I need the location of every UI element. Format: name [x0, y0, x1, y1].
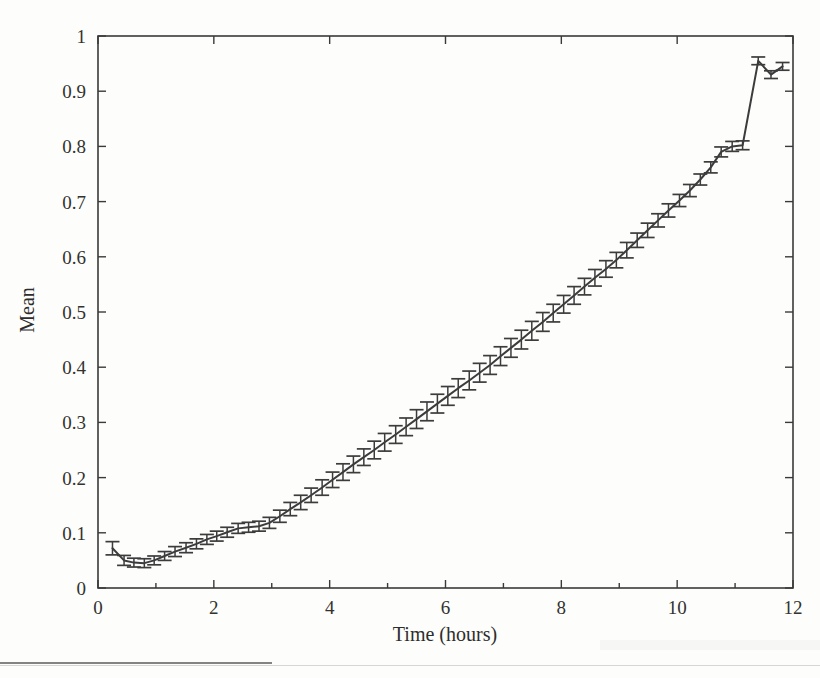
x-tick-label: 6 — [441, 597, 451, 618]
y-axis-title: Mean — [16, 287, 38, 333]
data-line-series-mean — [112, 61, 782, 563]
y-tick-label: 1 — [77, 26, 87, 47]
y-axis-tick-labels: 00.10.20.30.40.50.60.70.80.91 — [62, 26, 86, 599]
y-tick-label: 0.6 — [62, 247, 86, 268]
y-tick-label: 0 — [77, 578, 87, 599]
x-tick-label: 0 — [93, 597, 103, 618]
x-axis-title: Time (hours) — [393, 623, 497, 646]
y-tick-label: 0.1 — [62, 523, 86, 544]
plot-frame — [98, 36, 793, 588]
y-axis-ticks — [98, 36, 793, 588]
x-tick-label: 2 — [209, 597, 219, 618]
x-tick-label: 12 — [784, 597, 803, 618]
y-tick-label: 0.4 — [62, 357, 86, 378]
x-tick-label: 8 — [557, 597, 567, 618]
y-tick-label: 0.8 — [62, 136, 86, 157]
chart-svg: 024681012 00.10.20.30.40.50.60.70.80.91 … — [0, 0, 820, 678]
x-axis-tick-labels: 024681012 — [93, 597, 802, 618]
y-tick-label: 0.9 — [62, 81, 86, 102]
x-tick-label: 10 — [668, 597, 687, 618]
y-tick-label: 0.2 — [62, 468, 86, 489]
x-axis-ticks — [98, 36, 793, 588]
y-tick-label: 0.7 — [62, 192, 86, 213]
error-bars — [105, 57, 789, 568]
y-tick-label: 0.3 — [62, 412, 86, 433]
x-tick-label: 4 — [325, 597, 335, 618]
data-line — [112, 61, 782, 563]
chart-figure: 024681012 00.10.20.30.40.50.60.70.80.91 … — [0, 0, 820, 678]
y-tick-label: 0.5 — [62, 302, 86, 323]
